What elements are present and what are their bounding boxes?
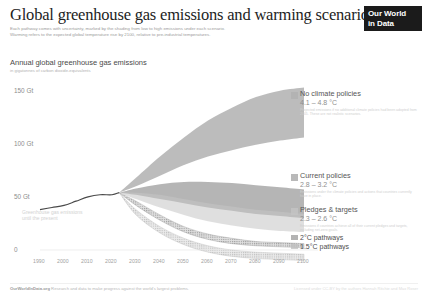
x-tick-2030: 2030 xyxy=(129,258,141,264)
y-tick-0: 0 xyxy=(14,246,18,253)
annotation-name: Pledges & targets xyxy=(300,206,420,215)
owid-logo-line-1: Our World xyxy=(368,9,422,19)
owid-logo-line-2: in Data xyxy=(368,19,422,29)
footer-source: Research and data to make progress again… xyxy=(51,286,189,291)
y-tick-50: 50 Gt xyxy=(14,193,30,200)
footer-brand[interactable]: OurWorldInData.org xyxy=(10,286,50,291)
y-tick-150: 150 Gt xyxy=(14,87,33,94)
annotation-temperature: 2.8 – 3.2 °C xyxy=(300,181,420,190)
x-tick-2100: 2100 xyxy=(297,258,309,264)
annotation-temperature: 2.3 – 2.6 °C xyxy=(300,215,420,224)
chart-heading-text: Annual global greenhouse gas emissions xyxy=(10,58,147,67)
annotation-pledges-targets[interactable]: Pledges & targets2.3 – 2.6 °CEmissions i… xyxy=(300,206,420,233)
legend-swatch-1 xyxy=(291,174,298,181)
pathway-swatch-0 xyxy=(291,235,298,240)
x-tick-2090: 2090 xyxy=(273,258,285,264)
pathway-legend: 2°C pathways 1.5°C pathways xyxy=(300,234,349,251)
band-no-climate-policies xyxy=(119,87,304,192)
x-tick-2050: 2050 xyxy=(177,258,189,264)
chart-container: Global greenhouse gas emissions and warm… xyxy=(0,0,426,304)
legend-swatch-0 xyxy=(291,92,298,99)
historical-label-line-2: until the present xyxy=(22,215,117,221)
owid-logo[interactable]: Our World in Data xyxy=(364,6,422,31)
annotation-note: Emissions if countries achieve all of th… xyxy=(300,224,420,233)
chart-header: Global greenhouse gas emissions and warm… xyxy=(10,6,360,38)
x-tick-2070: 2070 xyxy=(225,258,237,264)
footer: OurWorldInData.org Research and data to … xyxy=(10,286,189,291)
x-tick-2000: 2000 xyxy=(57,258,69,264)
historical-emissions-label: Greenhouse gas emissions until the prese… xyxy=(22,209,117,221)
annotation-note: Projected emissions if no additional cli… xyxy=(300,108,420,117)
y-tick-100: 100 Gt xyxy=(14,140,33,147)
legend-item-15c[interactable]: 1.5°C pathways xyxy=(300,243,349,252)
x-tick-2080: 2080 xyxy=(249,258,261,264)
annotation-note: Emissions under the climate policies and… xyxy=(300,190,420,199)
legend-item-2c[interactable]: 2°C pathways xyxy=(300,234,349,243)
annotation-name: No climate policies xyxy=(300,90,420,99)
subtitle-line-2: Warming refers to the expected global te… xyxy=(10,32,340,38)
page-title: Global greenhouse gas emissions and warm… xyxy=(10,6,360,24)
x-tick-2060: 2060 xyxy=(201,258,213,264)
annotation-temperature: 4.1 – 4.8 °C xyxy=(300,99,420,108)
annotation-current-policies[interactable]: Current policies2.8 – 3.2 °CEmissions un… xyxy=(300,172,420,199)
annotation-name: Current policies xyxy=(300,172,420,181)
x-tick-1990: 1990 xyxy=(33,258,45,264)
chart-heading-units: in gigatonnes of carbon dioxide-equivale… xyxy=(10,68,147,74)
historical-emissions-line xyxy=(40,193,119,210)
footer-divider xyxy=(10,283,418,284)
x-tick-2010: 2010 xyxy=(81,258,93,264)
legend-swatch-2 xyxy=(291,208,298,215)
chart-subtitle: Each pathway comes with uncertainty, mar… xyxy=(10,26,340,38)
pathway-swatch-1 xyxy=(291,244,298,249)
chart-axis-heading: Annual global greenhouse gas emissions i… xyxy=(10,58,147,74)
x-tick-2040: 2040 xyxy=(153,258,165,264)
annotation-no-climate-policies[interactable]: No climate policies4.1 – 4.8 °CProjected… xyxy=(300,90,420,117)
footer-license: Licensed under CC-BY by the authors Hann… xyxy=(294,286,418,291)
x-tick-2020: 2020 xyxy=(105,258,117,264)
